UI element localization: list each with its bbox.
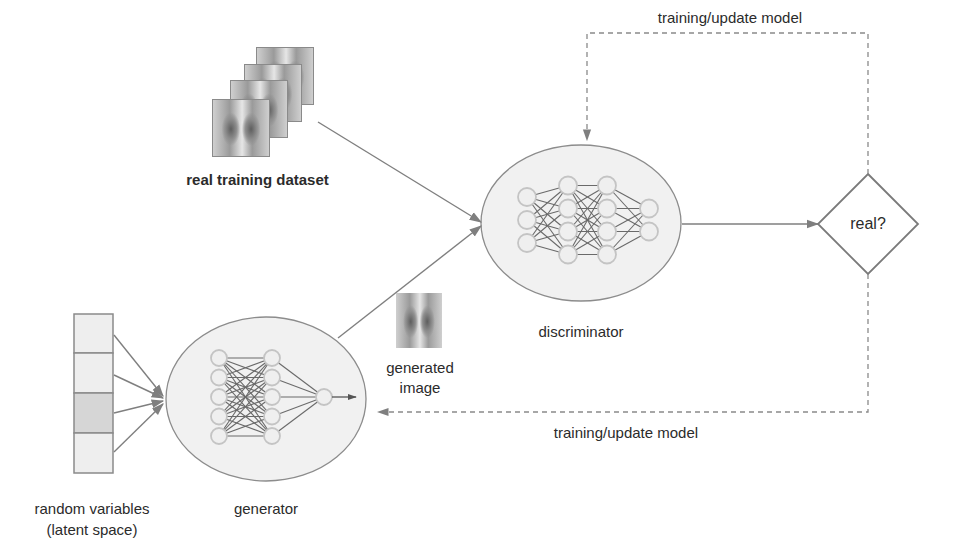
neuron-node bbox=[640, 200, 658, 218]
neuron-node bbox=[518, 211, 536, 229]
neuron-node bbox=[559, 200, 577, 218]
neuron-node bbox=[559, 223, 577, 241]
neuron-node bbox=[518, 234, 536, 252]
neuron-node bbox=[264, 389, 280, 405]
neuron-node bbox=[264, 370, 280, 386]
discriminator-label: discriminator bbox=[521, 322, 641, 341]
neuron-node bbox=[598, 246, 616, 264]
real-dataset-label: real training dataset bbox=[170, 170, 345, 189]
neuron-node bbox=[264, 350, 280, 366]
xray-image bbox=[212, 99, 270, 157]
neuron-node bbox=[211, 409, 227, 425]
generated-image-label-line1: generated bbox=[372, 358, 468, 377]
neuron-node bbox=[211, 370, 227, 386]
neuron-node bbox=[518, 188, 536, 206]
neuron-node bbox=[264, 409, 280, 425]
neuron-node bbox=[264, 428, 280, 444]
neuron-node bbox=[640, 223, 658, 241]
generator-label: generator bbox=[216, 499, 316, 518]
neuron-node bbox=[316, 389, 332, 405]
neuron-node bbox=[598, 200, 616, 218]
neuron-node bbox=[598, 177, 616, 195]
generated-image-label-line2: image bbox=[372, 378, 468, 397]
neuron-node bbox=[598, 223, 616, 241]
neuron-node bbox=[211, 428, 227, 444]
latent-label-line1: random variables bbox=[22, 499, 162, 518]
decision-label: real? bbox=[838, 214, 898, 233]
latent-label-line2: (latent space) bbox=[22, 520, 162, 539]
latent-vector bbox=[74, 314, 113, 473]
feedback-bottom-label: training/update model bbox=[526, 423, 726, 442]
neuron-node bbox=[559, 177, 577, 195]
gan-diagram bbox=[0, 0, 961, 555]
generated-xray-image bbox=[396, 293, 442, 348]
neuron-node bbox=[211, 389, 227, 405]
latent-to-generator-arrows bbox=[114, 335, 163, 452]
neuron-node bbox=[559, 246, 577, 264]
feedback-top-label: training/update model bbox=[630, 8, 830, 27]
neuron-node bbox=[211, 350, 227, 366]
feedback-top-dashed-arrow bbox=[587, 33, 868, 174]
